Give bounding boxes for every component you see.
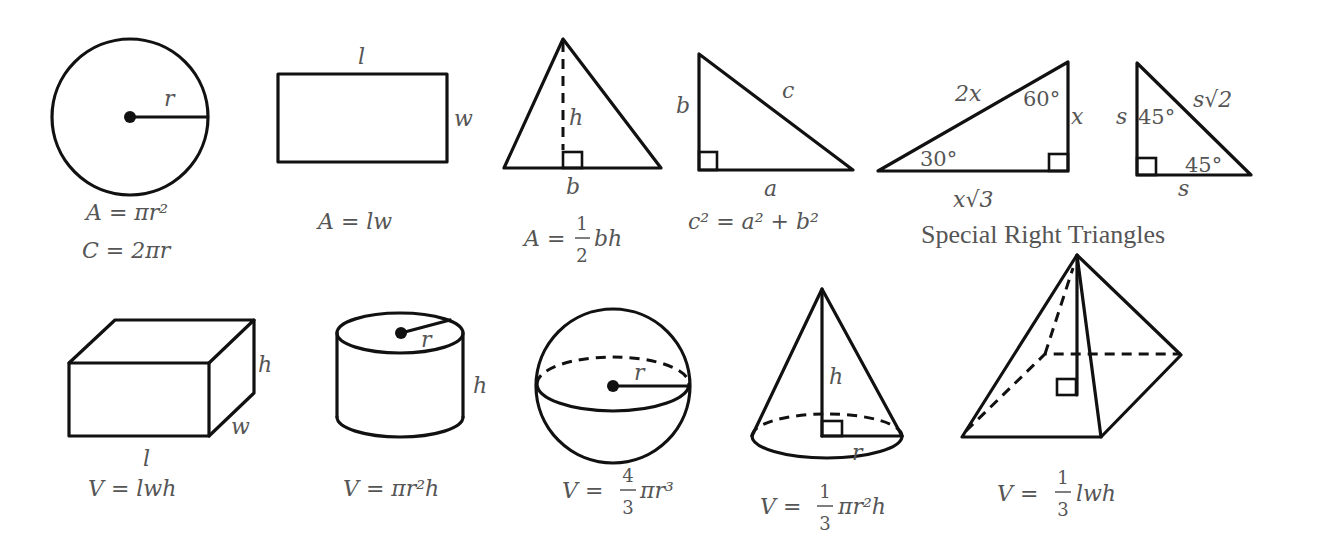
cone-base-front — [752, 436, 902, 458]
right-triangle-shape — [699, 54, 853, 170]
rectangle-shape — [278, 74, 447, 162]
cone-figure: h r V = 1 3 πr²h — [752, 289, 902, 534]
short-leg-label: x — [1071, 104, 1084, 129]
leg-a-label: a — [764, 176, 777, 201]
pyramid-formula-rhs: lwh — [1076, 481, 1116, 506]
right-angle-mark — [822, 421, 842, 436]
rectangle-length-label: l — [358, 44, 365, 69]
sphere-figure: r V = 4 3 πr³ — [536, 309, 690, 518]
pyramid-figure: V = 1 3 lwh — [962, 255, 1181, 520]
sphere-frac-den: 3 — [622, 497, 633, 518]
formula-sheet: r A = πr² C = 2πr l w A = lw h b A = 1 2… — [0, 0, 1318, 550]
right-angle-mark — [1057, 379, 1076, 395]
prism-height-label: h — [258, 352, 272, 377]
circle-area-formula: A = πr² — [84, 200, 168, 225]
sphere-formula-lhs: V = — [562, 478, 603, 503]
prism-top-face — [69, 320, 254, 363]
triangle-shape — [504, 39, 661, 168]
prism-width-label: w — [231, 414, 250, 439]
prism-volume-formula: V = lwh — [88, 476, 176, 501]
pyramid-visible-faces — [962, 255, 1181, 437]
pyramid-frac-num: 1 — [1057, 467, 1068, 488]
cylinder-height-label: h — [473, 373, 487, 398]
cone-formula-rhs: πr²h — [837, 494, 886, 519]
pythagorean-formula: c² = a² + b² — [688, 209, 819, 234]
circle-figure: r A = πr² C = 2πr — [52, 39, 208, 263]
cylinder-figure: r h V = πr²h — [337, 313, 487, 501]
cylinder-volume-formula: V = πr²h — [343, 476, 439, 501]
triangle-30-60-90-shape — [878, 62, 1068, 171]
angle-60-label: 60° — [1023, 87, 1060, 111]
prism-length-label: l — [143, 446, 150, 471]
pyramid-formula-lhs: V = — [997, 481, 1038, 506]
triangle-height-label: h — [569, 105, 583, 130]
cone-radius-label: r — [852, 440, 864, 465]
angle-45-bottom-label: 45° — [1185, 153, 1222, 177]
vertical-leg-label: s — [1116, 104, 1127, 129]
long-leg-label: x√3 — [953, 187, 993, 212]
right-angle-mark — [699, 152, 717, 170]
right-triangle-figure: b c a c² = a² + b² — [676, 54, 853, 234]
triangle-45-45-90-figure: s 45° s√2 45° s — [1116, 63, 1251, 201]
rectangle-width-label: w — [454, 106, 473, 131]
triangle-frac-den: 2 — [576, 245, 587, 266]
pyramid-hidden-base-edges — [966, 354, 1181, 431]
cone-sides — [752, 289, 902, 436]
cone-base-back-dashed — [752, 414, 902, 436]
hypotenuse-label: s√2 — [1193, 87, 1232, 112]
cone-frac-num: 1 — [819, 481, 830, 502]
rectangle-figure: l w A = lw — [278, 44, 473, 234]
triangle-30-60-90-figure: 2x 60° x 30° x√3 — [878, 62, 1084, 212]
sphere-radius-label: r — [634, 360, 646, 385]
triangle-frac-num: 1 — [576, 213, 587, 234]
hypotenuse-label: 2x — [954, 81, 982, 106]
sphere-formula-rhs: πr³ — [639, 478, 674, 503]
right-angle-mark — [1049, 154, 1068, 171]
cylinder-radius-label: r — [421, 327, 433, 352]
radius-label: r — [164, 86, 176, 111]
cone-formula-lhs: V = — [760, 494, 801, 519]
pyramid-front-edge — [1077, 255, 1101, 437]
rectangular-prism-figure: h w l V = lwh — [69, 320, 272, 501]
triangle-formula-rhs: bh — [594, 226, 622, 251]
angle-30-label: 30° — [920, 147, 957, 171]
pyramid-frac-den: 3 — [1057, 499, 1068, 520]
triangle-base-label: b — [566, 174, 580, 199]
triangle-formula-lhs: A = — [522, 226, 565, 251]
sphere-frac-num: 4 — [622, 465, 633, 486]
equator-back-dashed — [537, 357, 689, 384]
angle-45-top-label: 45° — [1138, 105, 1175, 129]
right-angle-mark — [1137, 158, 1156, 175]
rectangle-area-formula: A = lw — [316, 209, 392, 234]
hypotenuse-c-label: c — [782, 78, 794, 103]
triangle-figure: h b A = 1 2 bh — [504, 39, 661, 266]
special-right-triangles-caption: Special Right Triangles — [921, 220, 1165, 249]
leg-b-label: b — [676, 93, 690, 118]
prism-front-face — [69, 363, 209, 436]
horizontal-leg-label: s — [1178, 176, 1189, 201]
right-angle-mark — [563, 152, 582, 168]
circle-circumference-formula: C = 2πr — [82, 238, 172, 263]
cone-frac-den: 3 — [819, 513, 830, 534]
cone-height-label: h — [829, 364, 843, 389]
cylinder-bottom-arc — [337, 417, 463, 437]
